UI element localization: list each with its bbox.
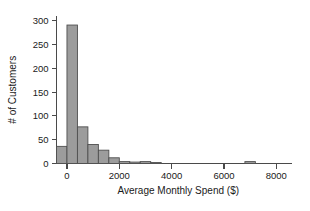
- y-tick-label: 250: [33, 39, 49, 50]
- histogram-bar: [245, 162, 255, 164]
- histogram-bar: [88, 144, 98, 163]
- x-tick-label: 6000: [213, 170, 234, 181]
- histogram-bar: [109, 158, 119, 164]
- x-axis-title: Average Monthly Spend ($): [117, 185, 239, 196]
- histogram-bar: [57, 146, 67, 163]
- histogram-bar: [130, 162, 140, 163]
- y-tick-label: 50: [38, 134, 49, 145]
- y-tick-label: 300: [33, 15, 49, 26]
- histogram-bar: [67, 25, 77, 163]
- histogram-bar: [119, 162, 129, 164]
- x-tick-label: 2000: [109, 170, 130, 181]
- histogram-chart: 05010015020025030002000400060008000Avera…: [0, 0, 310, 211]
- x-tick-label: 8000: [266, 170, 287, 181]
- bars-group: [57, 25, 256, 163]
- chart-canvas: 05010015020025030002000400060008000Avera…: [0, 0, 310, 211]
- histogram-bar: [140, 162, 150, 164]
- y-tick-label: 200: [33, 63, 49, 74]
- y-tick-label: 0: [43, 158, 48, 169]
- y-tick-label: 100: [33, 110, 49, 121]
- histogram-bar: [98, 150, 108, 163]
- histogram-bar: [77, 127, 87, 164]
- x-tick-label: 0: [64, 170, 69, 181]
- histogram-bar: [151, 163, 161, 164]
- x-tick-label: 4000: [161, 170, 182, 181]
- y-axis-title: # of Customers: [7, 56, 18, 124]
- y-tick-label: 150: [33, 87, 49, 98]
